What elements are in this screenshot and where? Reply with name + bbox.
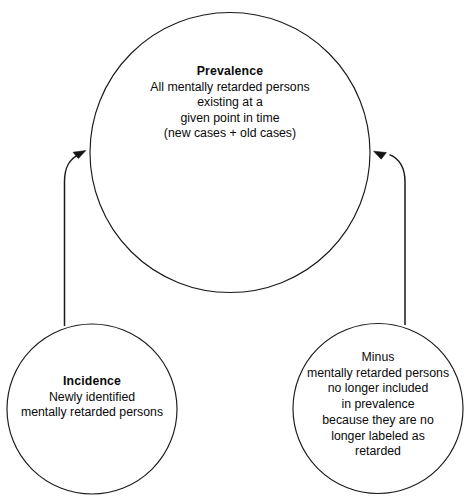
minus-to-prevalence-arrow-shaft (390, 155, 406, 325)
incidence-line-2: mentally retarded persons (0, 405, 192, 421)
minus-line-2: no longer included (288, 381, 468, 397)
incidence-line-1: Newly identified (0, 390, 192, 406)
prevalence-heading: Prevalence (95, 64, 365, 80)
minus-line-5: longer labeled as (288, 429, 468, 445)
minus-label: Minus mentally retarded persons no longe… (288, 350, 468, 460)
minus-line-6: retarded (288, 444, 468, 460)
minus-to-prevalence-arrowhead (374, 151, 387, 159)
minus-line-3: in prevalence (288, 397, 468, 413)
prevalence-label: Prevalence All mentally retarded persons… (95, 64, 365, 142)
minus-line-4: because they are no (288, 413, 468, 429)
prevalence-line-4: (new cases + old cases) (95, 126, 365, 142)
minus-heading: Minus (288, 350, 468, 366)
prevalence-line-3: given point in time (95, 111, 365, 127)
diagram-canvas: Prevalence All mentally retarded persons… (0, 0, 470, 501)
prevalence-circle (90, 13, 370, 293)
prevalence-line-1: All mentally retarded persons (95, 80, 365, 96)
prevalence-line-2: existing at a (95, 95, 365, 111)
minus-line-1: mentally retarded persons (288, 366, 468, 382)
incidence-heading: Incidence (0, 374, 192, 390)
incidence-to-prevalence-arrow-shaft (65, 154, 80, 326)
incidence-label: Incidence Newly identified mentally reta… (0, 374, 192, 421)
